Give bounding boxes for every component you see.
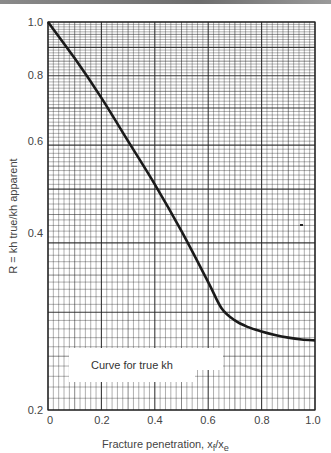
x-axis-label: Fracture penetration, xf/xe <box>0 438 331 453</box>
x-axis-label-mid: /x <box>215 438 224 450</box>
x-axis-label-sub-e: e <box>224 443 229 453</box>
y-tick-0-2: 0.2 <box>28 404 43 416</box>
x-tick-0-8: 0.8 <box>254 414 269 425</box>
x-tick-0-2: 0.2 <box>94 414 109 425</box>
x-axis-label-main: Fracture penetration, x <box>102 438 213 450</box>
y-tick-0-6: 0.6 <box>28 135 43 147</box>
y-tick-0-8: 0.8 <box>28 69 43 81</box>
legend-label: Curve for true kh <box>91 359 173 371</box>
y-tick-0-4: 0.4 <box>28 227 43 239</box>
y-tick-1-0: 1.0 <box>28 16 43 28</box>
x-tick-0-4: 0.4 <box>147 414 162 425</box>
x-tick-1-0: 1.0 <box>305 414 320 425</box>
y-axis-label: R = kh true/kh apparent <box>7 158 19 273</box>
mark-dot <box>300 224 303 226</box>
x-tick-0-6: 0.6 <box>200 414 215 425</box>
x-tick-0: 0 <box>47 414 53 425</box>
legend-box-extension <box>195 348 223 370</box>
